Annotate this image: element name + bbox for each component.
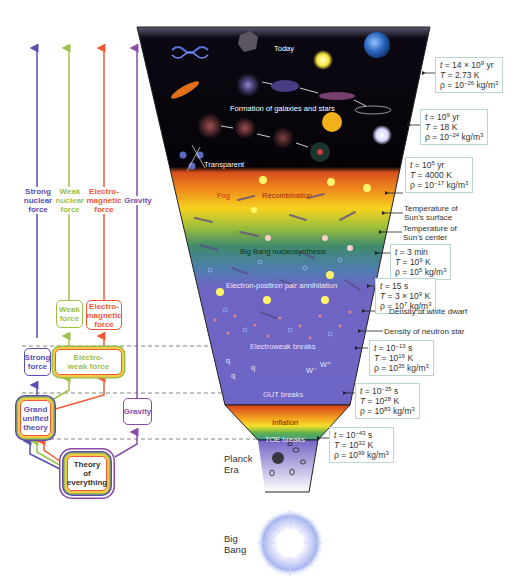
weak-nuclear-force-label: Weaknuclearforce [55, 187, 85, 214]
sun-surface-note: Temperature ofSun's surface [404, 204, 458, 222]
pair-annihilation-label: Electron-positron pair annihilation [226, 281, 337, 290]
electromagnetic-force-label: Electro-magneticforce [86, 187, 122, 214]
big-bang-burst [256, 509, 324, 577]
info-box-1e-13-s: t = 10−13 s T = 1016 K ρ = 1035 kg/m3 [369, 340, 434, 376]
info-box-3-min: t = 3 min T = 109 K ρ = 105 kg/m3 [390, 244, 451, 280]
quark-symbol: q [226, 356, 230, 365]
recombination-label: Recombination [262, 191, 312, 200]
cosmic-history-diagram: Strongnuclearforce Weaknuclearforce Elec… [0, 0, 515, 581]
earth-icon [364, 32, 390, 58]
planck-stem [258, 440, 318, 492]
fog-label: Fog [217, 191, 230, 200]
inflation-label: Inflation [272, 418, 298, 427]
gut-breaks-label: GUT breaks [263, 390, 303, 399]
theory-of-everything-box: Theoryofeverything [67, 456, 107, 491]
sun-center-note: Temperature ofSun's center [403, 224, 457, 242]
info-box-1e-43-s: t = 10−43 s T = 1032 K ρ = 1099 kg/m3 [329, 427, 394, 463]
strong-force-box: Strongforce [24, 348, 51, 376]
strong-nuclear-force-label: Strongnuclearforce [22, 187, 54, 214]
toe-breaks-label: TOE breaks [265, 435, 305, 444]
w-minus-symbol: W⁻ [306, 366, 317, 375]
sun-icon [313, 50, 333, 70]
today-label: Today [274, 44, 294, 53]
transparent-label: Transparent [204, 160, 244, 169]
planck-era-label: PlanckEra [224, 453, 253, 475]
info-box-today: t = 14 × 109 yr T = 2.73 K ρ = 10−26 kg/… [435, 57, 503, 93]
quark-symbol: q [251, 363, 255, 372]
info-box-1e9-yr: t = 109 yr T = 18 K ρ = 10−24 kg/m3 [420, 109, 488, 145]
spiral-galaxy-icon [319, 92, 355, 100]
nucleosynthesis-label: Big Bang nucleosynthesis [240, 247, 326, 256]
big-bang-label: BigBang [224, 533, 246, 555]
gravity-box: Gravity [123, 398, 152, 425]
gravity-label: Gravity [123, 196, 153, 205]
galaxy-formation-label: Formation of galaxies and stars [230, 104, 335, 113]
electromagnetic-force-box: Electro-magneticforce [86, 300, 122, 330]
electroweak-force-box: Electro-weak force [55, 349, 122, 375]
grand-unified-theory-box: Grandunifiedtheory [20, 400, 51, 436]
neutron-star-note: Density of neutron star [384, 327, 464, 336]
white-dwarf-note: Density of white dwarf [389, 307, 467, 316]
quark-symbol: q [231, 371, 235, 380]
electroweak-breaks-label: Electroweak breaks [250, 342, 315, 351]
star-cutaway-icon [322, 112, 342, 132]
info-box-1e5-yr: t = 105 yr T = 4000 K ρ = 10−17 kg/m3 [405, 157, 473, 193]
w-plus-symbol: W⁺ [320, 360, 331, 369]
weak-force-box: Weakforce [56, 300, 83, 328]
info-box-1e-35-s: t = 10−35 s T = 1028 K ρ = 1083 kg/m3 [355, 383, 420, 419]
